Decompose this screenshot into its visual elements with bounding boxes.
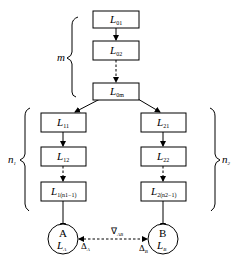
- box-L0m: L0m: [93, 83, 139, 100]
- box-L12: L12: [41, 147, 86, 166]
- box-L22: L22: [141, 147, 186, 166]
- svg-text:A: A: [59, 227, 67, 239]
- box-L02: L02: [93, 41, 139, 60]
- svg-text:B: B: [159, 227, 166, 239]
- box-L01: L01: [93, 11, 139, 28]
- brace-m-label: m: [57, 51, 65, 63]
- node-A: A LA: [48, 224, 78, 254]
- brace-m: [67, 17, 78, 97]
- brace-n2: [210, 108, 220, 211]
- brace-n2-label: n2: [222, 153, 231, 166]
- delta-A-label: ΔA: [81, 241, 91, 252]
- edge-L0m-L21: [138, 99, 160, 112]
- box-L21: L21: [141, 113, 186, 132]
- edge-L0m-L11: [75, 99, 100, 112]
- brace-n1: [20, 108, 30, 211]
- box-L11: L11: [41, 113, 86, 132]
- flow-diagram: L01 L02 L0m L11 L12 L1(n1−1) L21 L22 L2(…: [0, 0, 238, 264]
- link-label-AB: ∇AB: [110, 226, 123, 237]
- box-L1n1-1: L1(n1−1): [41, 182, 86, 201]
- brace-n1-label: n1: [8, 153, 16, 166]
- box-L2n2-1: L2(n2−1): [141, 182, 186, 201]
- node-B: B LB: [148, 224, 178, 254]
- delta-B-label: ΔB: [139, 243, 148, 254]
